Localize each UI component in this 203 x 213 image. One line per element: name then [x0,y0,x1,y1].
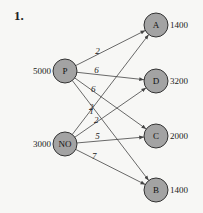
edges-group [72,30,148,184]
edge-p-to-d [77,72,144,79]
node-label: P [62,66,67,76]
edge-no-to-b [76,149,146,184]
node-label: D [153,76,160,86]
edge-cost-label: 6 [91,84,96,94]
edge-p-to-b [72,81,148,181]
edge-cost-label: 2 [94,115,99,125]
transportation-network-diagram: 26621257 P5000NO3000A1400D3200C2000B1400 [0,0,203,213]
edge-cost-label: 5 [95,131,100,141]
nodes-group: P5000NO3000A1400D3200C2000B1400 [33,13,189,202]
edge-labels-group: 26621257 [89,46,100,160]
edge-no-to-c [77,137,144,143]
supply-value: 5000 [33,66,52,76]
edge-p-to-c [75,78,146,129]
edge-cost-label: 6 [94,65,99,75]
edge-p-to-a [76,30,146,65]
node-no: NO3000 [33,132,77,156]
supply-value: 3000 [33,139,52,149]
edge-no-to-d [75,88,146,137]
node-label: B [153,185,159,195]
node-b: B1400 [144,178,189,202]
node-d: D3200 [144,69,189,93]
demand-value: 3200 [170,76,189,86]
edge-cost-label: 7 [92,151,97,161]
node-label: NO [59,139,72,149]
node-c: C2000 [144,124,189,148]
node-p: P5000 [33,59,77,83]
node-label: A [153,20,160,30]
demand-value: 2000 [170,131,189,141]
node-a: A1400 [144,13,189,37]
edge-cost-label: 2 [95,46,100,56]
node-label: C [153,131,159,141]
demand-value: 1400 [170,185,189,195]
demand-value: 1400 [170,20,189,30]
